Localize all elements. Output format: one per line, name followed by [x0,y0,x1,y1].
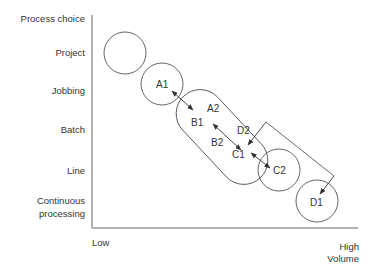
project-circle [104,32,146,74]
node-c1: C1 [232,149,245,160]
node-a1: A1 [156,79,169,90]
node-b1: B1 [191,117,204,128]
node-b2: B2 [211,137,224,148]
process-choice-diagram: A1 A2 B1 D2 B2 C1 C2 D1 [0,0,376,275]
node-d1: D1 [310,197,323,208]
node-c2: C2 [273,165,286,176]
bracket-arrow-d2 [248,122,266,145]
node-d2: D2 [237,125,250,136]
bracket-arrow-d1 [320,176,334,194]
node-a2: A2 [207,103,220,114]
